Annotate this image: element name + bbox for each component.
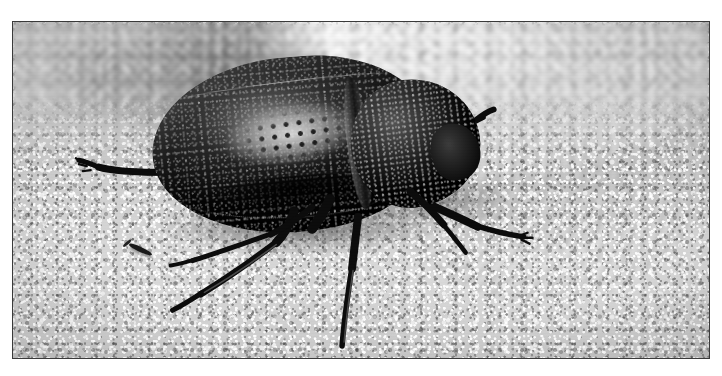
beetle-limbs-front [13,22,709,358]
tibia-hind-right [442,223,466,253]
tarsus-hind-left [171,260,195,266]
tibia-mid-left [200,241,278,295]
tarsus-mid-left [173,292,203,310]
femur-center [352,217,358,269]
coxa-center [312,199,330,229]
photograph [13,22,709,358]
photo-frame [12,21,710,359]
page-root: Black and white close-up photograph of a… [0,0,722,376]
tibia-center [342,267,352,347]
femur-hind-right [410,191,444,225]
